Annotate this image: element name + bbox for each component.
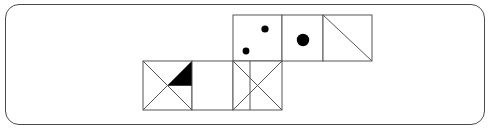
pip-icon xyxy=(243,48,250,55)
pip-icon xyxy=(261,25,268,32)
face-two-dots-outline xyxy=(233,15,282,61)
face-empty-outline xyxy=(192,61,233,110)
pip-icon xyxy=(297,34,309,46)
face-one-dot xyxy=(282,15,323,61)
cube-net-svg xyxy=(0,0,492,132)
cube-net-figure xyxy=(0,0,492,132)
face-diagonal xyxy=(323,15,372,61)
face-empty xyxy=(192,61,233,110)
face-two-dots xyxy=(233,15,282,61)
face-x-vertical xyxy=(233,61,282,110)
face-x-black-triangle xyxy=(143,61,192,110)
